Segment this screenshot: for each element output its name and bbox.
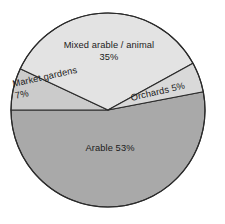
- pie-chart: Mixed arable / animal 35% Market gardens…: [0, 0, 225, 224]
- pie-chart-svg: [0, 0, 225, 224]
- pie-slices: [11, 13, 205, 207]
